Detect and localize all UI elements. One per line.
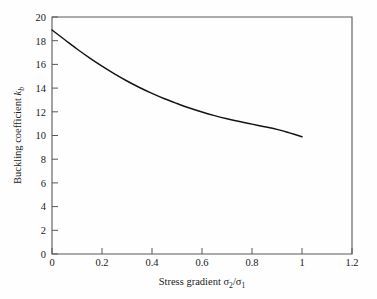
x-axis-title-text: Stress gradient (159, 276, 224, 287)
y-tick-label: 2 (41, 225, 46, 236)
y-tick-label: 14 (36, 83, 47, 94)
x-tick-label: 1 (299, 257, 304, 268)
chart-page: 0 0.2 0.4 0.6 0.8 1 1.2 0 2 4 6 8 10 12 … (0, 0, 377, 299)
y-tick-label: 18 (36, 36, 47, 47)
buckling-coefficient-chart: 0 0.2 0.4 0.6 0.8 1 1.2 0 2 4 6 8 10 12 … (0, 0, 377, 299)
y-tick-label: 8 (41, 154, 46, 165)
x-tick-label: 0.2 (95, 257, 108, 268)
x-tick-label: 0.8 (245, 257, 258, 268)
x-tick-label: 0.4 (145, 257, 159, 268)
y-axis-title-text: Buckling coefficient (12, 96, 23, 184)
y-tick-label: 4 (41, 201, 47, 212)
y-tick-label: 6 (41, 178, 46, 189)
x-tick-label: 0.6 (195, 257, 208, 268)
x-tick-label: 1.2 (345, 257, 358, 268)
y-axis-title-subscript: b (17, 87, 26, 91)
y-tick-label: 16 (36, 59, 47, 70)
x-axis-title-sub1: 1 (242, 281, 246, 290)
y-tick-label: 12 (36, 107, 47, 118)
y-tick-label: 10 (36, 130, 47, 141)
y-tick-label: 20 (36, 12, 47, 23)
x-tick-label: 0 (49, 257, 54, 268)
y-tick-label: 0 (41, 249, 46, 260)
